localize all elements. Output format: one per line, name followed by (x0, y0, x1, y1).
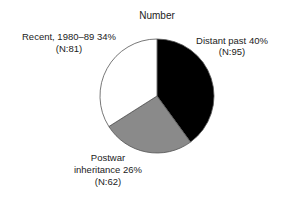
label-recent-line1: Recent, 1980–89 34% (22, 31, 117, 42)
label-distant-past-line2: (N:95) (219, 46, 245, 57)
pie-slices (100, 39, 214, 153)
pie-chart: Number Distant past 40% (N:95) Postwar i… (0, 0, 288, 203)
chart-title: Number (139, 10, 175, 21)
label-postwar-line1: Postwar (91, 152, 125, 163)
label-postwar-inheritance: Postwar inheritance 26% (N:62) (74, 152, 143, 187)
label-distant-past-line1: Distant past 40% (196, 35, 268, 46)
label-postwar-line2: inheritance 26% (74, 164, 143, 175)
label-postwar-line3: (N:62) (95, 176, 121, 187)
label-distant-past: Distant past 40% (N:95) (196, 35, 268, 57)
label-recent-line2: (N:81) (56, 43, 82, 54)
label-recent: Recent, 1980–89 34% (N:81) (22, 31, 117, 54)
